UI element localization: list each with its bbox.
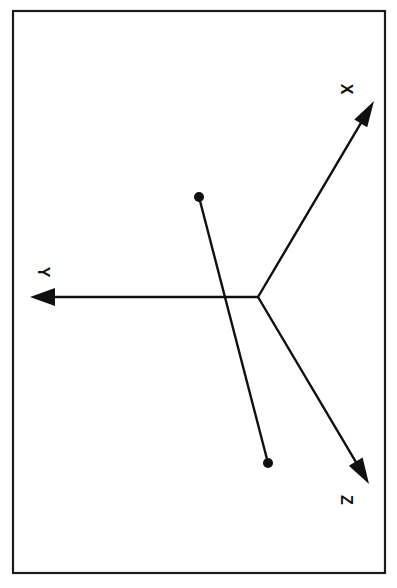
coordinate-axes-svg: X Y Z bbox=[0, 0, 397, 588]
figure-canvas: X Y Z bbox=[0, 0, 397, 588]
axis-label-y: Y bbox=[35, 267, 52, 278]
axis-label-z: Z bbox=[338, 495, 355, 505]
segment-endpoint-marker bbox=[194, 192, 204, 202]
segment-endpoint-marker bbox=[263, 458, 273, 468]
axis-label-x: X bbox=[338, 84, 355, 95]
page-border bbox=[13, 11, 385, 573]
